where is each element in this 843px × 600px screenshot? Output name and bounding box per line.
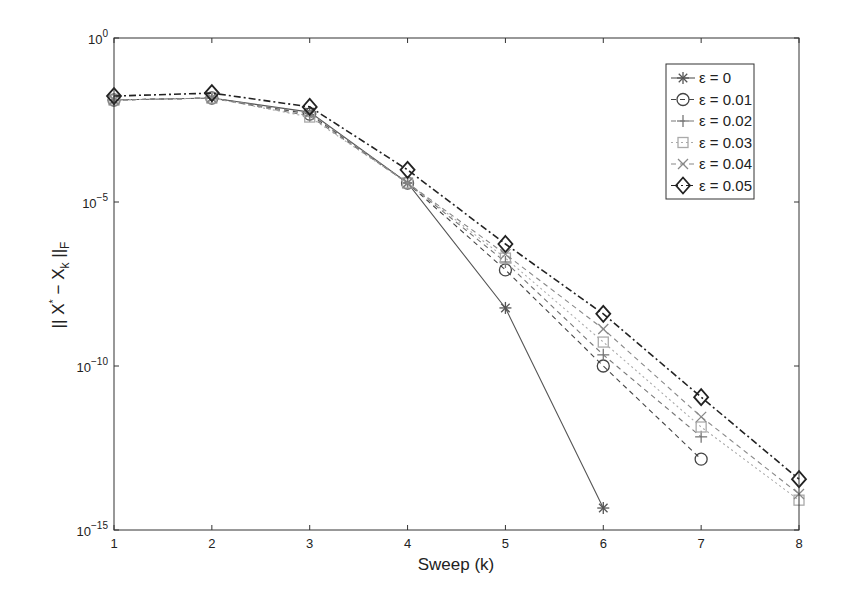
legend-label: ε = 0.04 [699,155,752,172]
legend-label: ε = 0 [699,69,731,86]
x-tick-label: 5 [502,536,509,551]
x-marker [696,412,706,422]
x-tick-label: 4 [404,536,411,551]
square-marker [696,422,706,432]
series-line-0 [114,98,603,508]
legend-label: ε = 0.02 [699,112,752,129]
asterisk-marker [597,502,609,514]
legend-entry: ε = 0.01 [671,91,752,108]
y-tick-label: 10−5 [82,192,108,211]
x-tick-label: 3 [306,536,313,551]
chart: 12345678 Sweep (k) 10010−510−1010−15 || … [0,0,843,600]
x-tick-label: 1 [110,536,117,551]
series-line-2 [114,98,701,437]
y-tick-label: 100 [88,28,108,47]
square-marker [598,337,608,347]
legend-label: ε = 0.05 [699,177,752,194]
y-axis-label: || X* − Xk ||F [47,242,72,329]
asterisk-legend-icon [677,72,689,84]
x-tick-label: 8 [795,536,802,551]
y-tick-label: 10−15 [77,520,109,539]
x-tick-label: 6 [600,536,607,551]
x-axis-label: Sweep (k) [418,555,495,574]
legend-label: ε = 0.01 [699,91,752,108]
diamond-marker [694,389,708,405]
x-tick-label: 2 [208,536,215,551]
circle-marker [597,360,609,372]
legend-label: ε = 0.03 [699,134,752,151]
y-tick-label: 10−10 [77,356,109,375]
diamond-marker [401,162,415,178]
x-marker [598,324,608,334]
svg-text:|| X* − Xk ||F: || X* − Xk ||F [47,242,72,329]
asterisk-marker [499,302,511,314]
series-line-1 [114,98,701,459]
x-tick-label: 7 [698,536,705,551]
legend: ε = 0ε = 0.01ε = 0.02ε = 0.03ε = 0.04ε =… [666,64,754,199]
circle-marker [695,453,707,465]
